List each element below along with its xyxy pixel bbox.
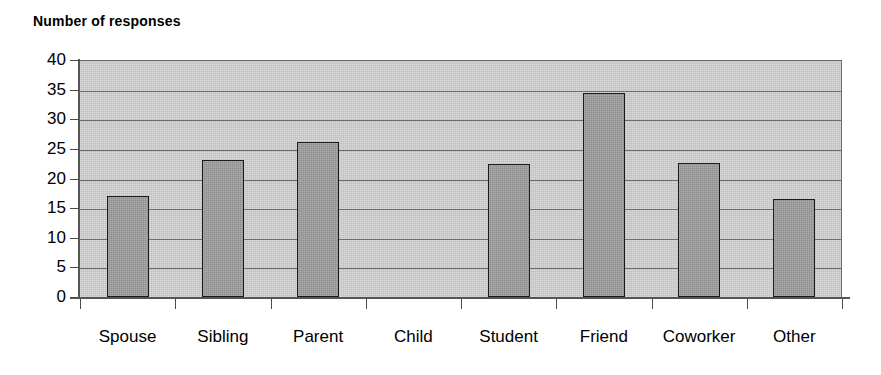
y-tick-mark bbox=[70, 149, 79, 150]
y-tick-label: 15 bbox=[0, 199, 66, 216]
bar-chart: Number of responses 4035302520151050 Spo… bbox=[0, 0, 881, 375]
x-axis: SpouseSiblingParentChildStudentFriendCow… bbox=[80, 327, 842, 357]
bar-slot bbox=[271, 60, 366, 297]
x-tick-label: Spouse bbox=[80, 327, 175, 347]
x-tick-label: Parent bbox=[271, 327, 366, 347]
y-tick-label: 40 bbox=[0, 51, 66, 68]
x-tick-mark bbox=[461, 299, 462, 309]
x-tick-mark bbox=[747, 299, 748, 309]
y-tick-label: 20 bbox=[0, 170, 66, 187]
y-tick-label: 30 bbox=[0, 110, 66, 127]
bar-slot bbox=[652, 60, 747, 297]
y-tick-mark bbox=[70, 90, 79, 91]
x-tick-label: Coworker bbox=[652, 327, 747, 347]
y-tick-mark bbox=[70, 238, 79, 239]
y-tick-mark bbox=[70, 208, 79, 209]
bar[interactable] bbox=[202, 160, 244, 297]
x-tick-mark bbox=[652, 299, 653, 309]
bar-slot bbox=[366, 60, 461, 297]
x-tick-mark bbox=[271, 299, 272, 309]
bar[interactable] bbox=[678, 163, 720, 297]
x-tick-label: Friend bbox=[556, 327, 651, 347]
y-tick-label: 10 bbox=[0, 229, 66, 246]
y-tick-label: 5 bbox=[0, 258, 66, 275]
y-tick-mark bbox=[70, 297, 79, 298]
bar[interactable] bbox=[583, 93, 625, 297]
bar[interactable] bbox=[488, 164, 530, 297]
bars-layer bbox=[80, 60, 842, 297]
x-tick-mark bbox=[175, 299, 176, 309]
bar-slot bbox=[747, 60, 842, 297]
chart-title: Number of responses bbox=[33, 13, 181, 29]
y-tick-mark bbox=[70, 119, 79, 120]
bar[interactable] bbox=[107, 196, 149, 297]
bar-slot bbox=[556, 60, 651, 297]
y-tick-label: 35 bbox=[0, 81, 66, 98]
x-tick-mark bbox=[366, 299, 367, 309]
x-tick-label: Child bbox=[366, 327, 461, 347]
x-tick-label: Student bbox=[461, 327, 556, 347]
x-tick-mark bbox=[80, 299, 81, 309]
bar[interactable] bbox=[773, 199, 815, 297]
x-tick-label: Sibling bbox=[175, 327, 270, 347]
bar-slot bbox=[175, 60, 270, 297]
y-tick-label: 0 bbox=[0, 288, 66, 305]
x-axis-line bbox=[70, 297, 850, 299]
bar-slot bbox=[461, 60, 556, 297]
y-tick-mark bbox=[70, 60, 79, 61]
x-tick-label: Other bbox=[747, 327, 842, 347]
x-tick-mark bbox=[842, 299, 843, 309]
x-tick-mark bbox=[556, 299, 557, 309]
y-tick-mark bbox=[70, 267, 79, 268]
y-axis: 4035302520151050 bbox=[0, 48, 66, 310]
bar[interactable] bbox=[297, 142, 339, 297]
y-tick-mark bbox=[70, 179, 79, 180]
bar-slot bbox=[80, 60, 175, 297]
y-tick-label: 25 bbox=[0, 140, 66, 157]
